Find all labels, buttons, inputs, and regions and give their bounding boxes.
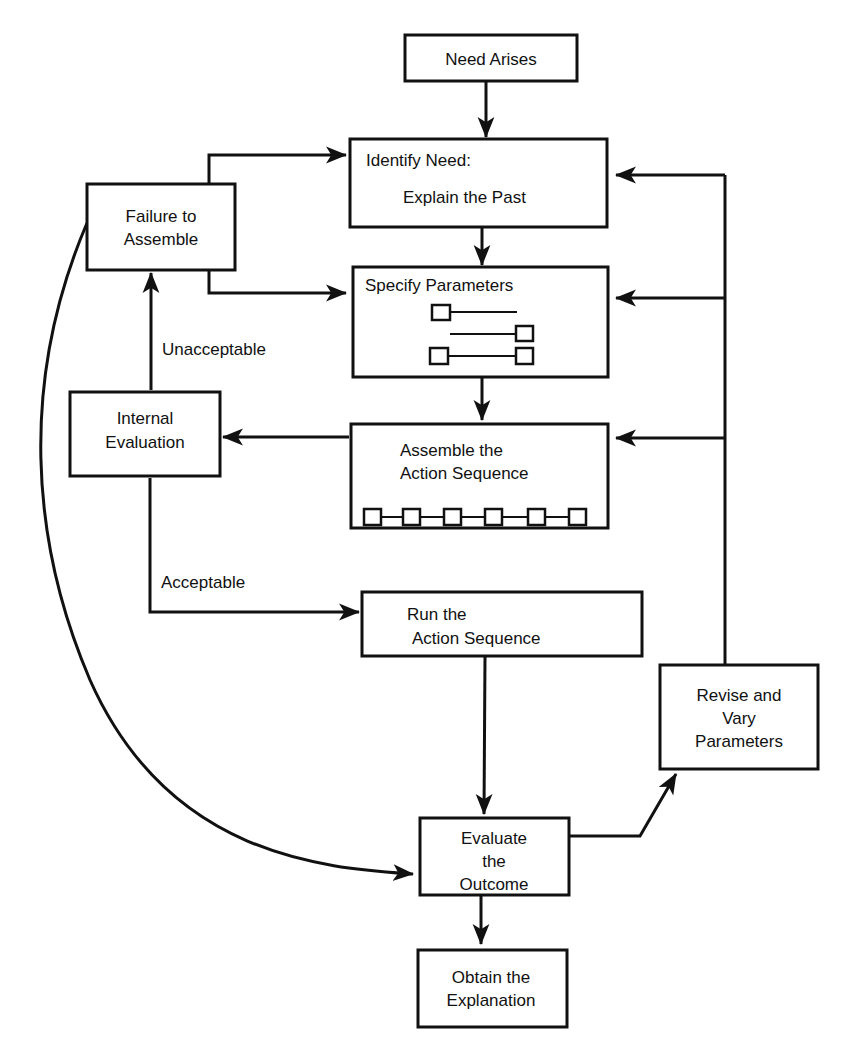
edge-label-unacceptable: Unacceptable bbox=[162, 340, 266, 359]
node-failure-to-assemble: Failure to Assemble bbox=[87, 184, 235, 270]
node-label: Need Arises bbox=[445, 50, 537, 69]
node-label-line2: Vary bbox=[722, 709, 756, 728]
node-label-line2: Action Sequence bbox=[400, 464, 529, 483]
node-identify-need: Identify Need: Explain the Past bbox=[350, 139, 607, 227]
node-label-line1: Run the bbox=[407, 605, 467, 624]
node-label-line1: Assemble the bbox=[400, 441, 503, 460]
node-label-line1: Obtain the bbox=[452, 968, 530, 987]
node-obtain-explanation: Obtain the Explanation bbox=[418, 950, 567, 1027]
node-evaluate-outcome: Evaluate the Outcome bbox=[420, 818, 569, 895]
edge-evaluate-to-revise bbox=[570, 774, 676, 836]
node-label-line3: Parameters bbox=[695, 732, 783, 751]
node-label-line2: Explanation bbox=[447, 991, 536, 1010]
node-run-action-sequence: Run the Action Sequence bbox=[362, 592, 642, 656]
node-label-line2: the bbox=[482, 852, 506, 871]
node-label-line2: Evaluation bbox=[105, 433, 184, 452]
node-specify-parameters: Specify Parameters bbox=[353, 267, 608, 377]
node-label-line2: Assemble bbox=[124, 230, 199, 249]
edge-failure-to-identify bbox=[209, 155, 346, 184]
node-label-line1: Evaluate bbox=[461, 829, 527, 848]
node-label-line2: Action Sequence bbox=[412, 629, 541, 648]
node-assemble-action-sequence: Assemble the Action Sequence bbox=[351, 424, 608, 528]
node-need-arises: Need Arises bbox=[405, 35, 577, 81]
node-label: Specify Parameters bbox=[365, 276, 513, 295]
node-label-line1: Failure to bbox=[126, 207, 197, 226]
node-label-line1: Revise and bbox=[696, 686, 781, 705]
node-label-line2: Explain the Past bbox=[403, 188, 526, 207]
node-label-line1: Internal bbox=[117, 409, 174, 428]
edge-failure-to-specify bbox=[209, 270, 346, 293]
node-label-line3: Outcome bbox=[460, 875, 529, 894]
node-internal-evaluation: Internal Evaluation bbox=[70, 392, 220, 476]
node-revise-vary-parameters: Revise and Vary Parameters bbox=[660, 665, 818, 769]
edge-run-to-evaluate bbox=[484, 657, 485, 814]
node-label-line1: Identify Need: bbox=[366, 151, 471, 170]
flowchart-canvas: Need Arises Identify Need: Explain the P… bbox=[0, 0, 841, 1051]
edge-label-acceptable: Acceptable bbox=[161, 573, 245, 592]
